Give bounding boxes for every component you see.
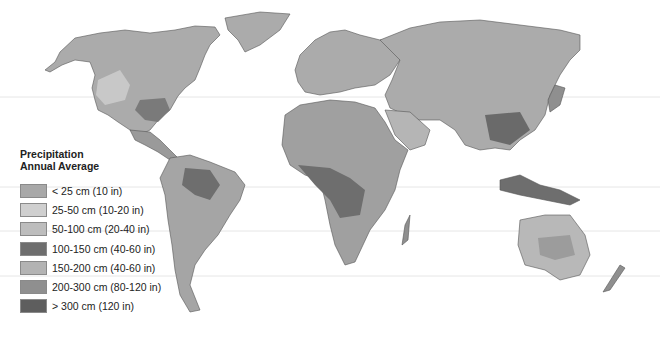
madagascar [402, 215, 410, 245]
legend-item: 200-300 cm (80-120 in) [20, 277, 161, 296]
legend-item: 150-200 cm (40-60 in) [20, 258, 161, 277]
new-zealand [603, 265, 625, 292]
legend-items: < 25 cm (10 in) 25-50 cm (10-20 in) 50-1… [20, 181, 161, 316]
legend-swatch [20, 222, 47, 236]
legend-item: > 300 cm (120 in) [20, 297, 161, 316]
legend-item: < 25 cm (10 in) [20, 181, 161, 200]
legend-swatch [20, 184, 47, 198]
north-america [45, 26, 220, 135]
legend-label: < 25 cm (10 in) [52, 185, 122, 197]
legend-label: 150-200 cm (40-60 in) [52, 262, 155, 274]
legend-item: 50-100 cm (20-40 in) [20, 220, 161, 239]
legend-label: 200-300 cm (80-120 in) [52, 281, 161, 293]
legend-label: > 300 cm (120 in) [52, 300, 134, 312]
legend-swatch [20, 242, 47, 256]
map-legend: Precipitation Annual Average < 25 cm (10… [20, 148, 161, 316]
legend-swatch [20, 203, 47, 217]
southeast-asia-islands [500, 175, 580, 205]
legend-swatch [20, 261, 47, 275]
legend-label: 100-150 cm (40-60 in) [52, 243, 155, 255]
greenland [225, 12, 290, 52]
legend-title-line1: Precipitation [20, 148, 161, 160]
legend-item: 25-50 cm (10-20 in) [20, 200, 161, 219]
legend-label: 50-100 cm (20-40 in) [52, 223, 149, 235]
legend-title-line2: Annual Average [20, 160, 161, 172]
legend-swatch [20, 299, 47, 313]
legend-item: 100-150 cm (40-60 in) [20, 239, 161, 258]
legend-label: 25-50 cm (10-20 in) [52, 204, 144, 216]
legend-swatch [20, 280, 47, 294]
